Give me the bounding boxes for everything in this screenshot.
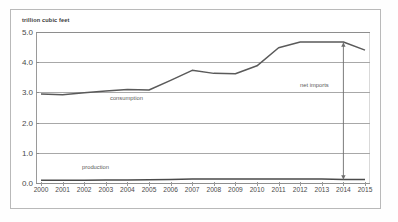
net-imports-arrow xyxy=(36,32,370,183)
x-tick-2002: 2002 xyxy=(77,186,92,193)
y-tick-2.0: 2.0 xyxy=(22,118,33,127)
x-tick-mark-2010 xyxy=(257,182,258,186)
y-tick-1.0: 1.0 xyxy=(22,148,33,157)
x-tick-2007: 2007 xyxy=(185,186,200,193)
x-tick-2009: 2009 xyxy=(228,186,243,193)
x-tick-mark-2000 xyxy=(41,182,42,186)
x-tick-2006: 2006 xyxy=(163,186,178,193)
x-tick-2013: 2013 xyxy=(314,186,329,193)
plot-area xyxy=(36,32,370,183)
x-tick-mark-2011 xyxy=(279,182,280,186)
x-tick-2005: 2005 xyxy=(142,186,157,193)
x-tick-mark-2012 xyxy=(300,182,301,186)
series-label-consumption: consumption xyxy=(110,95,143,101)
gridline-0.0 xyxy=(36,183,370,184)
x-tick-2001: 2001 xyxy=(55,186,70,193)
y-tick-0.0: 0.0 xyxy=(22,179,33,188)
x-tick-mark-2008 xyxy=(214,182,215,186)
x-tick-2012: 2012 xyxy=(293,186,308,193)
x-tick-mark-2002 xyxy=(84,182,85,186)
x-tick-2010: 2010 xyxy=(250,186,265,193)
x-tick-mark-2003 xyxy=(106,182,107,186)
axis-title: trillion cubic feet xyxy=(22,17,70,23)
x-tick-mark-2013 xyxy=(322,182,323,186)
x-tick-2000: 2000 xyxy=(34,186,49,193)
y-tick-mark xyxy=(36,183,39,184)
x-tick-mark-2007 xyxy=(192,182,193,186)
x-tick-2011: 2011 xyxy=(272,186,286,193)
y-tick-3.0: 3.0 xyxy=(22,88,33,97)
x-axis-labels: 2000200120022003200420052006200720082009… xyxy=(36,186,370,200)
x-tick-mark-2015 xyxy=(365,182,366,186)
series-label-production: production xyxy=(82,164,109,170)
x-tick-2003: 2003 xyxy=(98,186,113,193)
x-tick-2014: 2014 xyxy=(336,186,351,193)
x-tick-mark-2009 xyxy=(235,182,236,186)
x-tick-2015: 2015 xyxy=(358,186,373,193)
arrow-head-bottom xyxy=(341,175,345,179)
series-label-net-imports: net imports xyxy=(300,82,329,88)
x-tick-mark-2004 xyxy=(127,182,128,186)
y-tick-5.0: 5.0 xyxy=(22,28,33,37)
x-tick-mark-2006 xyxy=(171,182,172,186)
y-axis-labels: 5.04.03.02.01.00.0 xyxy=(0,32,33,183)
x-tick-mark-2014 xyxy=(343,182,344,186)
x-tick-2004: 2004 xyxy=(120,186,135,193)
x-tick-mark-2005 xyxy=(149,182,150,186)
x-tick-2008: 2008 xyxy=(206,186,221,193)
x-tick-mark-2001 xyxy=(63,182,64,186)
y-tick-4.0: 4.0 xyxy=(22,58,33,67)
arrow-head-top xyxy=(341,43,345,47)
chart-figure: trillion cubic feet 5.04.03.02.01.00.0 2… xyxy=(0,0,398,222)
